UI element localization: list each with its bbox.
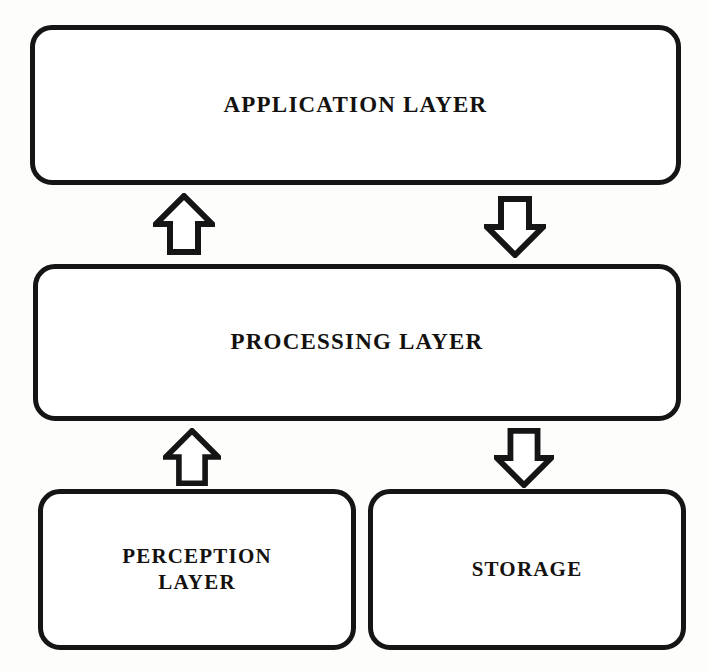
box-application-layer[interactable]: APPLICATION LAYER (30, 25, 681, 185)
arrow-up-to-processing-layer-icon (163, 428, 221, 486)
arrow-down-to-processing-layer-icon (484, 196, 546, 258)
box-storage[interactable]: STORAGE (368, 489, 686, 650)
box-perception-layer-label: PERCEPTION LAYER (122, 544, 272, 595)
arrow-up-to-application-layer-icon (153, 193, 215, 255)
architecture-diagram: APPLICATION LAYER PROCESSING LAYER PERCE… (0, 0, 709, 672)
box-processing-layer[interactable]: PROCESSING LAYER (33, 264, 681, 421)
box-application-layer-label: APPLICATION LAYER (224, 91, 488, 119)
box-perception-layer[interactable]: PERCEPTION LAYER (38, 489, 356, 650)
box-storage-label: STORAGE (472, 557, 583, 583)
arrow-down-to-storage-icon (494, 428, 554, 488)
box-processing-layer-label: PROCESSING LAYER (231, 328, 484, 356)
